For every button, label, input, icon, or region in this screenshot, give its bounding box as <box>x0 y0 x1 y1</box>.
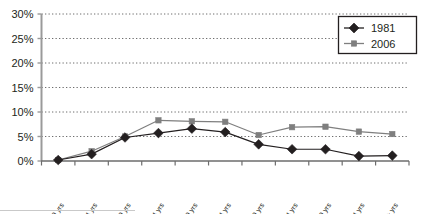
y-tick-labels: 0%5%10%15%20%25%30% <box>11 8 33 167</box>
data-point-marker <box>254 140 264 150</box>
x-tick-label-7: 50-54 yrs <box>275 201 300 214</box>
y-tick-label-30: 30% <box>11 8 33 20</box>
legend: 19812006 <box>339 17 417 54</box>
data-point-marker <box>223 119 228 124</box>
series-group <box>53 118 397 165</box>
line-chart: 0%5%10%15%20%25%30% 15-19 yrs20-24 yrs25… <box>0 0 423 214</box>
x-tick-labels: 15-19 yrs20-24 yrs25-29 yrs30-34 yrs35-3… <box>41 201 400 214</box>
x-tick-label-5: 40-44 yrs <box>208 201 233 214</box>
data-point-marker <box>287 144 297 154</box>
x-tick-label-8: 55-59 yrs <box>309 201 334 214</box>
x-tick-label-9: 60-64 yrs <box>342 201 367 214</box>
x-tick-label-6: 45-49 yrs <box>242 201 267 214</box>
series-line-2006 <box>56 118 395 163</box>
data-point-marker <box>390 131 395 136</box>
x-tick-label-10: 65+ yrs <box>379 201 400 214</box>
data-point-marker <box>289 124 294 129</box>
data-point-marker <box>351 41 356 46</box>
x-tick-label-4: 35-39 yrs <box>175 201 200 214</box>
legend-label-2006: 2006 <box>371 38 395 50</box>
chart-canvas: 0%5%10%15%20%25%30% 15-19 yrs20-24 yrs25… <box>0 0 423 214</box>
data-point-marker <box>156 118 161 123</box>
data-point-marker <box>356 129 361 134</box>
x-axis: 15-19 yrs20-24 yrs25-29 yrs30-34 yrs35-3… <box>41 161 409 214</box>
y-axis: 0%5%10%15%20%25%30% <box>11 8 41 167</box>
data-point-marker <box>256 132 261 137</box>
y-tick-label-15: 15% <box>11 82 33 94</box>
data-point-marker <box>189 119 194 124</box>
data-point-marker <box>120 133 130 143</box>
data-point-marker <box>387 151 397 161</box>
data-point-marker <box>187 124 197 134</box>
data-point-marker <box>354 151 364 161</box>
data-point-marker <box>154 128 164 138</box>
data-point-marker <box>53 155 63 165</box>
data-point-marker <box>87 149 97 159</box>
y-tick-label-0: 0% <box>18 155 34 167</box>
series-path-2006 <box>58 120 392 160</box>
y-tick-label-20: 20% <box>11 57 33 69</box>
y-tick-label-25: 25% <box>11 33 33 45</box>
data-point-marker <box>323 124 328 129</box>
x-tick-label-2: 25-29 yrs <box>108 201 133 214</box>
x-tick-label-3: 30-34 yrs <box>142 201 167 214</box>
data-point-marker <box>321 144 331 154</box>
y-tick-label-5: 5% <box>18 131 34 143</box>
x-tick-label-0: 15-19 yrs <box>41 201 66 214</box>
legend-label-1981: 1981 <box>371 22 395 34</box>
bottom-divider <box>0 210 135 211</box>
y-tick-label-10: 10% <box>11 106 33 118</box>
data-point-marker <box>220 127 230 137</box>
x-tick-label-1: 20-24 yrs <box>75 201 100 214</box>
